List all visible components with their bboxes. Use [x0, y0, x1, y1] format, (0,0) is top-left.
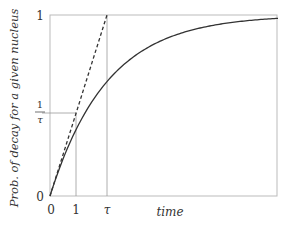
x-tick-zero: 0 — [47, 203, 55, 217]
plot-frame — [50, 15, 277, 196]
x-tick-tau: τ — [104, 203, 111, 217]
x-axis-label: time — [156, 205, 183, 219]
y-axis-label: Prob. of decay for a given nucleus — [7, 9, 21, 209]
tangent-dashed-line — [50, 15, 107, 196]
y-tick-zero: 0 — [36, 190, 44, 204]
x-tick-one: 1 — [72, 203, 80, 217]
y-tick-one: 1 — [36, 9, 44, 23]
decay-probability-chart: Prob. of decay for a given nucleus 1 1 τ… — [0, 0, 290, 227]
y-tick-inv-tau-numerator: 1 — [37, 99, 43, 110]
y-tick-inv-tau-denominator: τ — [37, 114, 43, 125]
decay-curve — [50, 18, 278, 196]
